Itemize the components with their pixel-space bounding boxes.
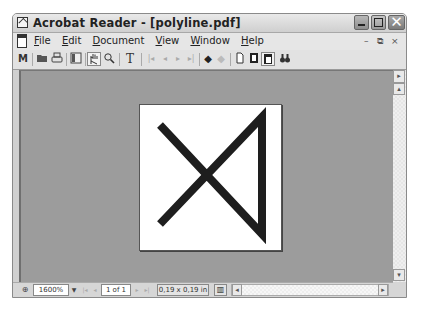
toolbar: M T |◂ ◂ ▸ ▸| ◆ ◆ (13, 50, 406, 70)
pdf-page (139, 104, 282, 251)
menu-file[interactable]: File (34, 35, 51, 46)
menu-help-mnemonic: H (241, 35, 249, 46)
scroll-right-button[interactable]: ▸ (378, 284, 388, 296)
toolbar-separator (85, 53, 86, 66)
menu-view-label: iew (162, 35, 179, 46)
maximize-button[interactable] (371, 15, 386, 30)
zoom-out-icon[interactable]: ⊕ (21, 285, 29, 295)
vertical-scrollbar[interactable]: ▸ ▴ ▾ (393, 70, 406, 282)
page-layout-button[interactable]: ▥ (214, 284, 227, 296)
go-forward-icon[interactable]: ◆ (214, 52, 228, 66)
open-icon[interactable] (35, 52, 49, 66)
scroll-down-button[interactable]: ▾ (393, 269, 405, 281)
acrobat-window: Acrobat Reader - [polyline.pdf] ✕ File E… (12, 13, 407, 298)
toolbar-separator (141, 53, 142, 66)
menu-document[interactable]: Document (93, 35, 145, 46)
scroll-left-button[interactable]: ◂ (232, 284, 242, 296)
toolbar-separator (32, 53, 33, 66)
doc-minimize-button[interactable]: – (364, 36, 369, 46)
toolbar-separator (199, 53, 200, 66)
polyline-figure (140, 105, 281, 250)
acrobat-app-icon[interactable] (17, 17, 28, 28)
menu-window-mnemonic: W (190, 35, 200, 46)
document-icon[interactable] (17, 34, 27, 48)
menu-window-label: indow (200, 35, 230, 46)
zoom-tool-icon[interactable] (102, 52, 116, 66)
hand-tool-icon[interactable] (87, 52, 101, 66)
menu-edit[interactable]: Edit (62, 35, 81, 46)
scrollbar-corner (393, 282, 406, 297)
scroll-up-button[interactable]: ▴ (393, 83, 405, 95)
menu-window[interactable]: Window (190, 35, 229, 46)
menu-help[interactable]: Help (241, 35, 264, 46)
menu-file-label: ile (39, 35, 51, 46)
side-toggle-button[interactable]: ▸ (393, 70, 405, 83)
status-bar: ⊕ 1600% ▼ |◂ ◂ 1 of 1 ▸ ▸| 0,19 x 0,19 i… (13, 282, 406, 298)
doc-close-button[interactable]: × (391, 36, 399, 46)
document-view[interactable] (19, 70, 394, 283)
go-back-icon[interactable]: ◆ (201, 52, 215, 66)
status-last-page-button[interactable]: ▸| (143, 285, 151, 295)
doc-restore-button[interactable]: ⧉ (377, 36, 383, 47)
find-icon[interactable] (278, 52, 292, 66)
menu-document-label: ocument (100, 35, 144, 46)
window-title: Acrobat Reader - [polyline.pdf] (33, 16, 241, 30)
fit-page-icon[interactable] (247, 52, 261, 66)
previous-page-icon[interactable]: ◂ (158, 52, 172, 66)
last-page-icon[interactable]: ▸| (184, 52, 198, 66)
menu-help-label: elp (249, 35, 264, 46)
status-prev-page-button[interactable]: ◂ (91, 285, 99, 295)
zoom-field[interactable]: 1600% (33, 284, 69, 296)
status-first-page-button[interactable]: |◂ (81, 285, 89, 295)
text-select-icon[interactable]: T (123, 52, 137, 66)
close-button[interactable]: ✕ (388, 15, 405, 30)
next-page-icon[interactable]: ▸ (171, 52, 185, 66)
actual-size-icon[interactable] (233, 52, 247, 66)
status-next-page-button[interactable]: ▸ (133, 285, 141, 295)
show-navigation-icon[interactable]: M (16, 52, 30, 66)
print-icon[interactable] (50, 52, 64, 66)
fit-width-icon[interactable] (261, 52, 275, 66)
menu-bar: File Edit Document View Window Help – ⧉ … (13, 33, 406, 50)
page-number-field[interactable]: 1 of 1 (101, 284, 131, 296)
toolbar-separator (230, 53, 231, 66)
horizontal-scrollbar[interactable]: ◂ ▸ (231, 284, 389, 296)
first-page-icon[interactable]: |◂ (144, 52, 158, 66)
bookmarks-pane-icon[interactable] (69, 52, 83, 66)
minimize-button[interactable] (354, 15, 369, 30)
menu-view[interactable]: View (156, 35, 180, 46)
zoom-dropdown-arrow[interactable]: ▼ (70, 285, 78, 295)
title-bar[interactable]: Acrobat Reader - [polyline.pdf] ✕ (13, 14, 406, 33)
menu-edit-label: dit (68, 35, 81, 46)
toolbar-separator (66, 53, 67, 66)
toolbar-separator (119, 53, 120, 66)
page-size-field: 0,19 x 0,19 in (157, 284, 209, 296)
